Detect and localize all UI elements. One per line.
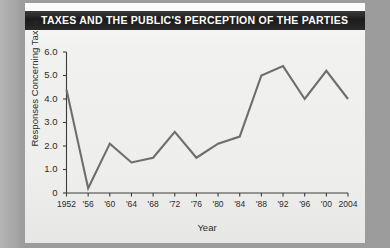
plot-area: 01.02.03.04.05.06.0 1952'56'60'64'68'72'…	[0, 0, 390, 248]
line-chart-svg	[0, 0, 390, 248]
y-tick-label: 1.0	[32, 164, 58, 174]
data-series-group	[67, 66, 349, 188]
figure-container: TAXES AND THE PUBLIC'S PERCEPTION OF THE…	[0, 0, 390, 248]
y-axis-title: Responses Concerning Taxes	[29, 4, 40, 164]
x-tick-label: 2004	[334, 199, 362, 209]
chart-axes	[63, 52, 348, 197]
y-tick-label: 0	[32, 188, 58, 198]
axis-lines	[67, 52, 349, 193]
data-line-responses	[67, 66, 349, 188]
x-axis-title: Year	[66, 222, 348, 233]
